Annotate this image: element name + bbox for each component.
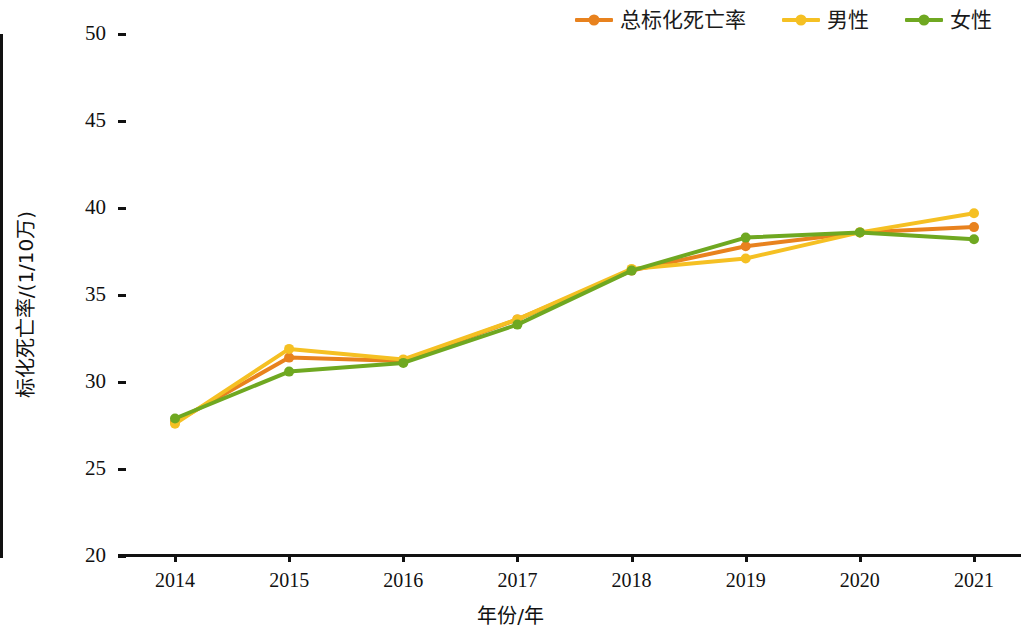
- data-point-marker: [855, 227, 865, 237]
- y-tick-mark: [118, 294, 126, 297]
- data-point-marker: [627, 266, 637, 276]
- x-tick-label: 2020: [815, 570, 905, 590]
- data-point-marker: [741, 241, 751, 251]
- y-tick-label: 25: [62, 458, 106, 479]
- data-point-marker: [398, 358, 408, 368]
- y-tick-label: 35: [62, 284, 106, 305]
- y-tick-label: 50: [62, 23, 106, 44]
- legend-swatch-icon: [905, 18, 943, 22]
- y-tick-mark: [118, 120, 126, 123]
- y-tick-mark: [118, 33, 126, 36]
- series-2: [170, 208, 979, 429]
- y-tick-mark: [118, 555, 126, 558]
- series-layer: [0, 0, 1021, 636]
- x-tick-mark: [174, 554, 177, 562]
- y-tick-mark: [118, 381, 126, 384]
- x-tick-mark: [288, 554, 291, 562]
- data-point-marker: [855, 227, 865, 237]
- data-point-marker: [855, 227, 865, 237]
- series-3: [170, 227, 979, 423]
- data-point-marker: [398, 354, 408, 364]
- data-point-marker: [170, 417, 180, 427]
- data-point-marker: [284, 344, 294, 354]
- data-point-marker: [969, 234, 979, 244]
- y-tick-label: 45: [62, 110, 106, 131]
- series-line: [175, 213, 974, 424]
- x-tick-mark: [973, 554, 976, 562]
- x-axis-title: 年份/年: [0, 600, 1021, 629]
- data-point-marker: [170, 414, 180, 424]
- series-line: [175, 232, 974, 418]
- legend-label: 男性: [827, 10, 869, 31]
- data-point-marker: [969, 208, 979, 218]
- x-tick-mark: [516, 554, 519, 562]
- data-point-marker: [512, 314, 522, 324]
- series-1: [170, 222, 979, 427]
- legend-swatch-icon: [782, 18, 820, 22]
- data-point-marker: [969, 222, 979, 232]
- data-point-marker: [284, 367, 294, 377]
- y-tick-mark: [118, 468, 126, 471]
- y-tick-label: 20: [62, 545, 106, 566]
- legend-label: 总标化死亡率: [620, 10, 746, 31]
- legend-item[interactable]: 总标化死亡率: [575, 10, 746, 31]
- x-tick-mark: [745, 554, 748, 562]
- x-tick-label: 2017: [472, 570, 562, 590]
- x-tick-label: 2018: [587, 570, 677, 590]
- x-tick-label: 2014: [130, 570, 220, 590]
- data-point-marker: [398, 356, 408, 366]
- legend-item[interactable]: 男性: [782, 10, 869, 31]
- data-point-marker: [170, 419, 180, 429]
- x-tick-label: 2015: [244, 570, 334, 590]
- x-tick-mark: [631, 554, 634, 562]
- x-tick-label: 2016: [358, 570, 448, 590]
- x-tick-mark: [402, 554, 405, 562]
- data-point-marker: [512, 320, 522, 330]
- data-point-marker: [284, 353, 294, 363]
- x-axis-line: [118, 554, 1021, 557]
- y-tick-mark: [118, 207, 126, 210]
- legend-swatch-icon: [575, 18, 613, 22]
- y-axis-line: [0, 34, 3, 558]
- y-tick-label: 40: [62, 197, 106, 218]
- series-line: [175, 227, 974, 422]
- data-point-marker: [627, 264, 637, 274]
- legend-item[interactable]: 女性: [905, 10, 992, 31]
- x-tick-mark: [859, 554, 862, 562]
- chart-legend: 总标化死亡率男性女性: [575, 5, 992, 35]
- line-chart: 总标化死亡率男性女性 50454035302520201420152016201…: [0, 0, 1021, 636]
- data-point-marker: [741, 233, 751, 243]
- y-tick-label: 30: [62, 371, 106, 392]
- x-tick-label: 2021: [929, 570, 1019, 590]
- data-point-marker: [512, 314, 522, 324]
- y-axis-title: 标化死亡率/(1/10万): [10, 85, 39, 525]
- x-tick-label: 2019: [701, 570, 791, 590]
- data-point-marker: [741, 254, 751, 264]
- data-point-marker: [627, 266, 637, 276]
- legend-label: 女性: [950, 10, 992, 31]
